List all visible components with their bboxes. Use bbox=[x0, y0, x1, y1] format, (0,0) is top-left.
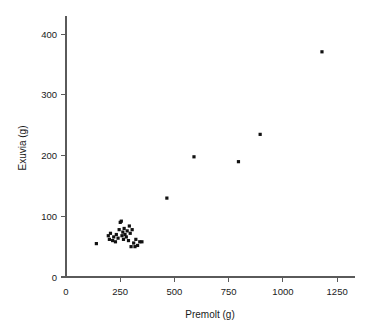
data-point bbox=[108, 238, 111, 241]
data-points-group bbox=[95, 50, 324, 248]
scatter-plot-figure: 025050075010001250 0100200300400 Premolt… bbox=[0, 0, 367, 330]
y-axis-tick-labels: 0100200300400 bbox=[41, 29, 57, 283]
y-axis-ticks bbox=[61, 34, 66, 277]
data-point bbox=[131, 228, 134, 231]
data-point bbox=[165, 196, 168, 199]
data-point bbox=[114, 240, 117, 243]
data-point bbox=[125, 235, 128, 238]
x-tick-label: 500 bbox=[167, 286, 183, 297]
data-point bbox=[115, 233, 118, 236]
data-point bbox=[129, 232, 132, 235]
data-point bbox=[259, 133, 262, 136]
data-point bbox=[126, 229, 129, 232]
data-point bbox=[127, 239, 130, 242]
x-tick-label: 0 bbox=[63, 286, 68, 297]
y-tick-label: 300 bbox=[41, 89, 57, 100]
data-point bbox=[136, 244, 139, 247]
y-tick-label: 200 bbox=[41, 150, 57, 161]
data-point bbox=[122, 238, 125, 241]
data-point bbox=[140, 240, 143, 243]
data-point bbox=[120, 234, 123, 237]
y-tick-label: 0 bbox=[52, 272, 57, 283]
y-tick-label: 100 bbox=[41, 211, 57, 222]
data-point bbox=[123, 227, 126, 230]
data-point bbox=[118, 228, 121, 231]
data-point bbox=[237, 160, 240, 163]
plot-canvas: 025050075010001250 0100200300400 Premolt… bbox=[0, 0, 367, 330]
data-point bbox=[116, 237, 119, 240]
data-point bbox=[134, 238, 137, 241]
x-axis-title: Premolt (g) bbox=[185, 309, 234, 320]
data-point bbox=[129, 245, 132, 248]
data-point bbox=[128, 224, 131, 227]
x-tick-label: 250 bbox=[112, 286, 128, 297]
y-tick-label: 400 bbox=[41, 29, 57, 40]
x-tick-label: 1250 bbox=[327, 286, 348, 297]
data-point bbox=[95, 242, 98, 245]
data-point bbox=[132, 241, 135, 244]
data-point bbox=[320, 50, 323, 53]
y-axis-title: Exuvia (g) bbox=[17, 125, 28, 170]
x-axis-tick-labels: 025050075010001250 bbox=[63, 286, 347, 297]
x-tick-label: 1000 bbox=[272, 286, 293, 297]
data-point bbox=[192, 155, 195, 158]
x-tick-label: 750 bbox=[221, 286, 237, 297]
data-point bbox=[111, 239, 114, 242]
data-point bbox=[109, 232, 112, 235]
data-point bbox=[120, 220, 123, 223]
